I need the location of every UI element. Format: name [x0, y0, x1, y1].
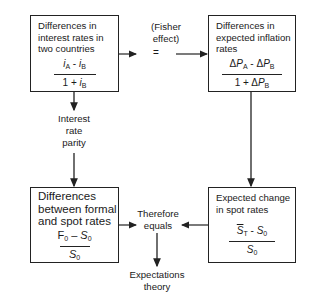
title-line: Differences in [216, 20, 291, 32]
label-line: rate [49, 125, 99, 137]
forward-spot-differences-box: Differences between formal and spot rate… [30, 187, 119, 263]
inflation-formula: ΔPA - ΔPB 1 + ΔPB [209, 57, 295, 92]
label-line: effect) [140, 33, 192, 45]
formula-numerator: iA - iB [31, 57, 118, 73]
title-line: in spot rates [216, 204, 290, 216]
title-line: interest rates in [38, 32, 104, 44]
fraction-bar [54, 74, 96, 75]
title-line: rates [216, 43, 291, 55]
expectations-theory-label: Expectations theory [122, 269, 192, 293]
label-line: parity [49, 137, 99, 149]
expected-spot-change-box: Expected change in spot rates ST - S0 S0 [208, 187, 296, 263]
label-line: theory [122, 281, 192, 293]
interest-rate-differences-title: Differences in interest rates in two cou… [38, 20, 104, 55]
title-line: Differences [38, 190, 117, 203]
fisher-effect-label: (Fisher effect) [140, 21, 192, 45]
label-line: equals [132, 220, 184, 232]
fraction-bar [229, 241, 275, 242]
inflation-differences-box: Differences in expected inflation rates … [208, 15, 296, 92]
formula-numerator: ΔPA - ΔPB [209, 57, 295, 73]
expected-spot-change-title: Expected change in spot rates [216, 192, 290, 215]
formula-denominator: S0 [31, 248, 118, 264]
interest-rate-parity-label: Interest rate parity [49, 113, 99, 149]
label-line: Interest [49, 113, 99, 125]
therefore-equals-label: Therefore equals [132, 208, 184, 232]
fraction-bar [60, 246, 90, 247]
inflation-differences-title: Differences in expected inflation rates [216, 20, 291, 55]
formula-numerator: F0 – S0 [31, 229, 118, 245]
formula-numerator: ST - S0 [209, 224, 295, 240]
interest-rate-differences-box: Differences in interest rates in two cou… [30, 15, 119, 92]
label-line: (Fisher [140, 21, 192, 33]
formula-denominator: S0 [209, 243, 295, 259]
expected-spot-formula: ST - S0 S0 [209, 224, 295, 259]
label-line: Therefore [132, 208, 184, 220]
equals-sign: = [146, 47, 166, 59]
title-line: Differences in [38, 20, 104, 32]
title-line: expected inflation [216, 32, 291, 44]
interest-rate-formula: iA - iB 1 + iB [31, 57, 118, 92]
title-line: between formal [38, 203, 117, 216]
title-line: Expected change [216, 192, 290, 204]
title-line: two countries [38, 43, 104, 55]
forward-spot-formula: F0 – S0 S0 [31, 229, 118, 264]
forward-spot-differences-title: Differences between formal and spot rate… [38, 190, 117, 228]
title-line: and spot rates [38, 215, 117, 228]
formula-denominator: 1 + ΔPB [209, 76, 295, 92]
fraction-bar [222, 74, 282, 75]
label-line: Expectations [122, 269, 192, 281]
formula-denominator: 1 + iB [31, 76, 118, 92]
